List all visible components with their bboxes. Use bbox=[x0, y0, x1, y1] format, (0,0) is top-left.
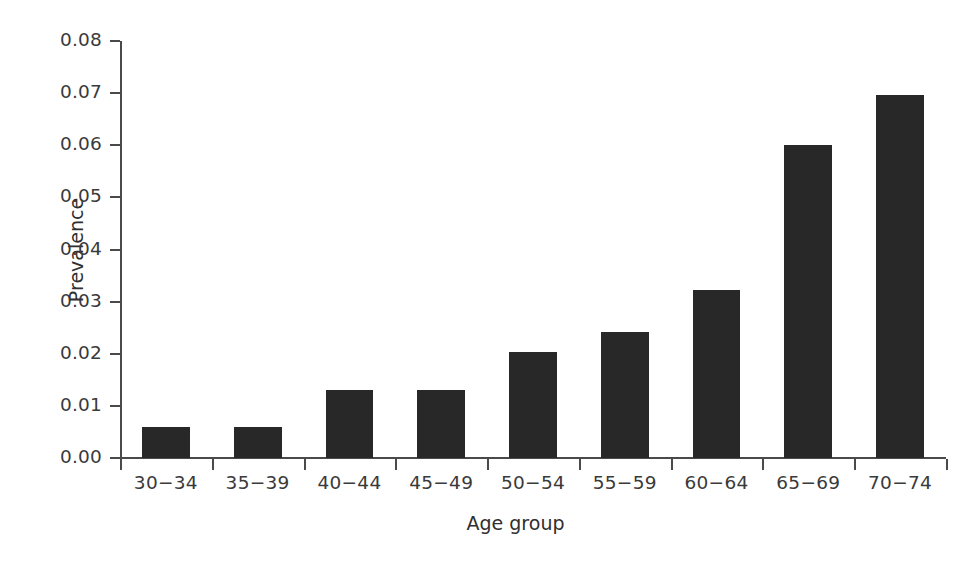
y-axis-tick-mark bbox=[110, 405, 120, 407]
x-axis-category-label: 70−74 bbox=[854, 472, 946, 493]
x-axis-category-label: 50−54 bbox=[487, 472, 579, 493]
y-axis-tick-label: 0.00 bbox=[34, 446, 102, 467]
x-axis-tick-mark bbox=[762, 459, 764, 470]
x-axis-category-label: 55−59 bbox=[579, 472, 671, 493]
bar bbox=[876, 95, 924, 458]
y-axis-tick-mark bbox=[110, 40, 120, 42]
y-axis-tick-mark bbox=[110, 144, 120, 146]
y-axis-tick-label: 0.05 bbox=[34, 185, 102, 206]
bar bbox=[417, 390, 465, 458]
y-axis-tick-label: 0.03 bbox=[34, 290, 102, 311]
y-axis-tick-label: 0.07 bbox=[34, 81, 102, 102]
plot-area bbox=[120, 41, 946, 458]
x-axis-tick-mark bbox=[579, 459, 581, 470]
x-axis-tick-mark bbox=[671, 459, 673, 470]
bar bbox=[234, 427, 282, 458]
x-axis-tick-mark bbox=[854, 459, 856, 470]
x-axis-tick-mark bbox=[304, 459, 306, 470]
y-axis-tick-label: 0.06 bbox=[34, 133, 102, 154]
bar bbox=[784, 145, 832, 458]
x-axis-category-label: 40−44 bbox=[304, 472, 396, 493]
y-axis-tick-mark bbox=[110, 196, 120, 198]
x-axis-tick-mark bbox=[487, 459, 489, 470]
x-axis-category-label: 45−49 bbox=[395, 472, 487, 493]
x-axis-tick-mark bbox=[120, 459, 122, 470]
x-axis-category-label: 60−64 bbox=[671, 472, 763, 493]
prevalence-by-age-group-bar-chart: Prevalence 0.000.010.020.030.040.050.060… bbox=[0, 0, 976, 566]
x-axis-category-label: 30−34 bbox=[120, 472, 212, 493]
x-axis-category-label: 65−69 bbox=[762, 472, 854, 493]
x-axis-title-row: Age group bbox=[0, 512, 976, 534]
y-axis-tick-label: 0.02 bbox=[34, 342, 102, 363]
bar bbox=[601, 332, 649, 458]
x-axis-tick-mark bbox=[395, 459, 397, 470]
bar bbox=[326, 390, 374, 458]
y-axis-tick-mark bbox=[110, 301, 120, 303]
y-axis-tick-mark bbox=[110, 249, 120, 251]
x-axis-tick-mark bbox=[946, 459, 948, 470]
bar bbox=[509, 352, 557, 458]
y-axis-tick-mark bbox=[110, 92, 120, 94]
y-axis-tick-label: 0.04 bbox=[34, 238, 102, 259]
y-axis-tick-mark bbox=[110, 457, 120, 459]
y-axis-tick-label: 0.08 bbox=[34, 29, 102, 50]
y-axis-tick-mark bbox=[110, 353, 120, 355]
x-axis-tick-mark bbox=[212, 459, 214, 470]
y-axis-tick-label: 0.01 bbox=[34, 394, 102, 415]
bar bbox=[142, 427, 190, 458]
x-axis-category-label: 35−39 bbox=[212, 472, 304, 493]
x-axis-title: Age group bbox=[467, 512, 565, 534]
bar bbox=[693, 290, 741, 458]
